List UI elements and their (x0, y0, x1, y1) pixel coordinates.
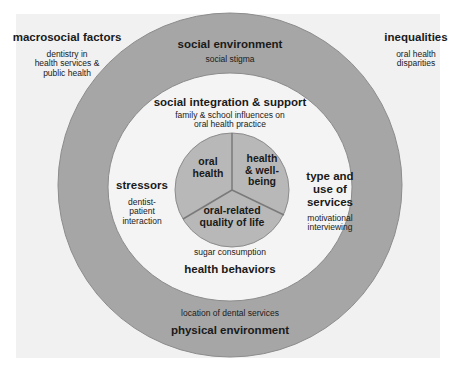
pie-segment-health-wellbeing: health & well- being (235, 153, 289, 188)
oral-health-line-1: oral (185, 156, 231, 168)
pie-segment-oral-health: oral health (185, 156, 231, 179)
stressors-sub-3: interaction (110, 217, 174, 227)
physical-environment-group: location of dental services physical env… (150, 309, 310, 336)
macrosocial-sub-3: public health (12, 69, 122, 79)
services-heading-3: services (290, 196, 370, 209)
social-environment-group: social environment social stigma (160, 38, 300, 64)
stressors-heading: stressors (110, 179, 174, 192)
wellbeing-line-3: being (235, 176, 289, 188)
services-group: type and use of services motivational in… (290, 170, 370, 233)
macrosocial-factors-group: macrosocial factors dentistry in health … (12, 31, 122, 78)
social-environment-heading: social environment (160, 38, 300, 51)
services-heading-1: type and (290, 170, 370, 183)
stressors-group: stressors dentist- patient interaction (110, 179, 174, 226)
social-integration-heading: social integration & support (140, 96, 320, 109)
health-behaviors-group: sugar consumption health behaviors (160, 248, 300, 275)
inequalities-group: inequalities oral health disparities (375, 31, 457, 69)
diagram-canvas: macrosocial factors dentistry in health … (0, 0, 457, 366)
health-behaviors-heading: health behaviors (160, 263, 300, 276)
social-environment-sub: social stigma (160, 55, 300, 65)
inequalities-heading: inequalities (375, 31, 457, 44)
pie-segment-quality-of-life: oral-related quality of life (190, 205, 274, 228)
inequalities-sub-2: disparities (375, 59, 457, 69)
services-sub-2: interviewing (290, 223, 370, 233)
services-heading-2: use of (290, 183, 370, 196)
macrosocial-factors-heading: macrosocial factors (12, 31, 122, 44)
physical-environment-heading: physical environment (150, 324, 310, 337)
social-integration-sub-2: oral health practice (140, 120, 320, 130)
physical-environment-sub: location of dental services (150, 309, 310, 319)
wellbeing-line-1: health (235, 153, 289, 165)
quality-line-1: oral-related (190, 205, 274, 217)
quality-line-2: quality of life (190, 217, 274, 229)
oral-health-line-2: health (185, 168, 231, 180)
social-integration-group: social integration & support family & sc… (140, 96, 320, 130)
health-behaviors-sub: sugar consumption (160, 248, 300, 258)
